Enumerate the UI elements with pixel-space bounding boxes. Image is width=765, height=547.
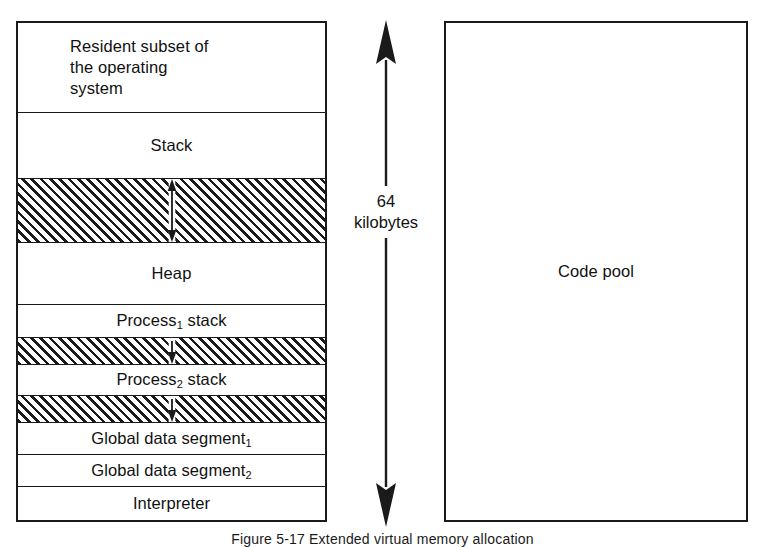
growth-down-arrow-icon — [164, 395, 179, 423]
memory-band-global-data-segment-1: Global data segment1 — [18, 423, 325, 455]
memory-band-process-1-stack: Process1 stack — [18, 305, 325, 337]
memory-band-label-stack: Stack — [145, 135, 199, 156]
memory-band-label-heap: Heap — [146, 263, 198, 284]
memory-band-label-interpreter: Interpreter — [127, 493, 216, 514]
memory-map-box: Resident subset of the operating systemS… — [16, 21, 327, 522]
memory-band-label-global-data-segment-2: Global data segment2 — [85, 460, 257, 481]
figure-memory-allocation-diagram: Resident subset of the operating systemS… — [0, 0, 765, 547]
memory-band-resident-os: Resident subset of the operating system — [18, 23, 325, 113]
memory-band-label-process-1-stack: Process1 stack — [110, 310, 232, 331]
memory-band-stack: Stack — [18, 113, 325, 178]
memory-band-label-resident-os: Resident subset of the operating system — [18, 36, 325, 99]
memory-band-label-global-data-segment-1: Global data segment1 — [85, 428, 257, 449]
memory-band-global-data-segment-2: Global data segment2 — [18, 455, 325, 487]
memory-band-process-2-stack: Process2 stack — [18, 365, 325, 395]
memory-band-free-space-process-1 — [18, 337, 325, 365]
figure-caption: Figure 5-17 Extended virtual memory allo… — [0, 531, 765, 547]
memory-band-heap: Heap — [18, 243, 325, 305]
memory-band-free-space-process-2 — [18, 395, 325, 423]
extent-measure-64-kilobytes: 64 kilobytes — [340, 14, 432, 533]
growth-double-arrow-icon — [164, 178, 179, 243]
growth-down-arrow-icon — [164, 337, 179, 365]
extent-label: 64 kilobytes — [340, 186, 432, 238]
memory-band-free-space-stack-heap — [18, 178, 325, 243]
memory-band-interpreter: Interpreter — [18, 487, 325, 520]
code-pool-box: Code pool — [444, 21, 748, 522]
memory-band-label-process-2-stack: Process2 stack — [110, 369, 232, 390]
code-pool-label: Code pool — [558, 262, 634, 281]
double-headed-arrow-icon — [340, 14, 432, 533]
